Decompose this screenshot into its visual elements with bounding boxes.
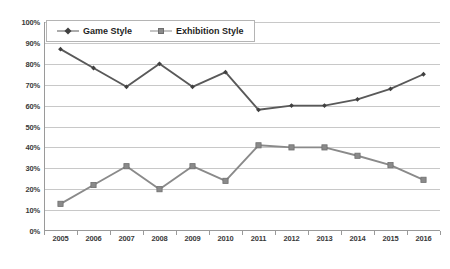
data-point-square-icon (256, 143, 261, 148)
x-axis-tick-mark (44, 231, 45, 235)
data-point-square-icon (58, 201, 63, 206)
series-line (61, 145, 424, 204)
legend-entry-exhibition-style[interactable]: Exhibition Style (150, 26, 244, 36)
x-axis-tick-label: 2006 (86, 234, 102, 243)
x-axis-tick-label: 2014 (350, 234, 366, 243)
x-axis-tick-mark (77, 231, 78, 235)
data-point-square-icon (355, 153, 360, 158)
data-point-square-icon (124, 164, 129, 169)
data-point-square-icon (91, 182, 96, 187)
y-axis-tick-label: 60% (4, 101, 40, 110)
x-axis-tick-label: 2005 (53, 234, 69, 243)
x-axis-tick-label: 2015 (383, 234, 399, 243)
x-axis-tick-mark (341, 231, 342, 235)
series-game-style (58, 47, 426, 112)
y-axis-tick-label: 80% (4, 59, 40, 68)
y-axis-tick-label: 100% (4, 18, 40, 27)
chart-legend: Game Style Exhibition Style (46, 20, 255, 42)
x-axis-tick-mark (407, 231, 408, 235)
x-axis-tick-mark (242, 231, 243, 235)
series-line (61, 49, 424, 110)
x-axis-tick-label: 2013 (317, 234, 333, 243)
y-axis-tick-label: 70% (4, 80, 40, 89)
data-point-square-icon (421, 177, 426, 182)
plot-area (44, 22, 440, 231)
y-axis-tick-label: 0% (4, 227, 40, 236)
legend-entry-game-style[interactable]: Game Style (57, 26, 132, 36)
x-axis-tick-mark (143, 231, 144, 235)
y-axis-tick-label: 50% (4, 122, 40, 131)
legend-label-exhibition-style: Exhibition Style (176, 26, 244, 36)
legend-label-game-style: Game Style (83, 26, 132, 36)
data-point-diamond-icon (322, 103, 327, 108)
data-point-square-icon (388, 163, 393, 168)
data-point-square-icon (157, 187, 162, 192)
x-axis-tick-mark (308, 231, 309, 235)
data-point-square-icon (322, 145, 327, 150)
x-axis-tick-mark (440, 231, 441, 235)
line-chart: 0%10%20%30%40%50%60%70%80%90%100% 200520… (0, 0, 450, 269)
y-axis-tick-label: 90% (4, 38, 40, 47)
x-axis-tick-mark (209, 231, 210, 235)
series-exhibition-style (58, 143, 426, 207)
x-axis-tick-label: 2011 (251, 234, 266, 243)
x-axis-tick-mark (176, 231, 177, 235)
x-axis-tick-label: 2008 (152, 234, 168, 243)
series-layer (44, 22, 440, 231)
data-point-square-icon (190, 164, 195, 169)
x-axis-tick-label: 2007 (119, 234, 135, 243)
data-point-diamond-icon (289, 103, 294, 108)
x-axis-tick-label: 2012 (284, 234, 300, 243)
x-axis-tick-label: 2016 (416, 234, 432, 243)
x-axis-tick-label: 2010 (218, 234, 234, 243)
x-axis-tick-mark (374, 231, 375, 235)
x-axis-tick-mark (275, 231, 276, 235)
x-axis-tick-label: 2009 (185, 234, 201, 243)
y-axis-tick-label: 10% (4, 206, 40, 215)
y-axis-tick-label: 40% (4, 143, 40, 152)
legend-marker-square-icon (150, 26, 172, 36)
data-point-diamond-icon (355, 97, 360, 102)
data-point-square-icon (223, 178, 228, 183)
y-axis-tick-label: 30% (4, 164, 40, 173)
legend-marker-diamond-icon (57, 26, 79, 36)
y-axis-tick-label: 20% (4, 185, 40, 194)
data-point-square-icon (289, 145, 294, 150)
x-axis-tick-mark (110, 231, 111, 235)
